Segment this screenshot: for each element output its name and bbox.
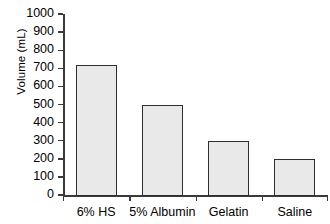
bar [274,159,315,196]
y-tick-mark [58,140,63,141]
y-axis-line [63,14,65,195]
y-tick-mark [58,158,63,159]
x-tick-label: Saline [262,205,328,220]
y-tick-label: 800 [8,42,54,57]
x-tick-label: 6% HS [63,205,129,220]
y-tick-label: 900 [8,24,54,39]
bar [208,141,249,196]
y-tick-mark [58,104,63,105]
y-tick-mark [58,13,63,14]
y-tick-label: 0 [8,187,54,202]
y-tick-label: 500 [8,97,54,112]
x-tick-mark [327,195,328,201]
y-tick-mark [58,50,63,51]
x-tick-mark [196,195,197,201]
x-tick-label: Gelatin [196,205,262,220]
y-tick-mark [58,31,63,32]
x-tick-mark [262,195,263,201]
x-tick-label: 5% Albumin [129,205,195,220]
x-tick-mark [129,195,130,201]
y-tick-mark [58,176,63,177]
y-tick-label: 100 [8,169,54,184]
x-tick-mark [63,195,64,201]
bar-chart: Volume (mL) 0100200300400500600700800900… [0,0,330,224]
y-tick-label: 400 [8,115,54,130]
y-tick-label: 200 [8,151,54,166]
y-tick-mark [58,122,63,123]
bar [142,105,183,197]
y-tick-label: 700 [8,60,54,75]
y-tick-mark [58,68,63,69]
y-tick-label: 1000 [8,6,54,21]
plot-area: 01002003004005006007008009001000 6% HS5%… [63,14,328,195]
y-tick-label: 600 [8,78,54,93]
y-tick-label: 300 [8,133,54,148]
y-tick-mark [58,86,63,87]
bar [76,65,117,196]
